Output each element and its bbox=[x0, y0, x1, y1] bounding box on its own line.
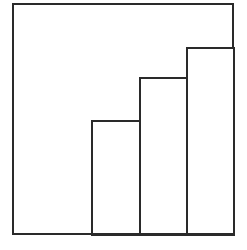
bar-3[interactable] bbox=[187, 48, 234, 235]
chart-canvas bbox=[0, 0, 247, 250]
chart-figure bbox=[0, 0, 247, 250]
bar-1[interactable] bbox=[92, 121, 140, 235]
bar-2[interactable] bbox=[140, 78, 187, 235]
